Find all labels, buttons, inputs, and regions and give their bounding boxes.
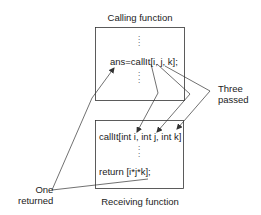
three-passed-label: Three passed <box>218 83 249 105</box>
ellipsis-dots-receiving: : : <box>138 144 140 158</box>
passed-arrows <box>137 64 210 132</box>
ellipsis-dots-bottom: : : <box>138 70 140 84</box>
one-returned-label: One returned <box>18 184 53 206</box>
calling-function-title: Calling function <box>108 12 173 23</box>
call-statement: ans=callIt[i, j, k]; <box>110 56 178 67</box>
function-signature: callIt[int i, int j, int k] <box>99 131 181 142</box>
ellipsis-dots-top: : : <box>138 35 140 47</box>
return-statement: return [i*j*k]; <box>99 166 151 177</box>
receiving-function-title: Receiving function <box>101 196 179 207</box>
diagram-canvas <box>0 0 261 215</box>
